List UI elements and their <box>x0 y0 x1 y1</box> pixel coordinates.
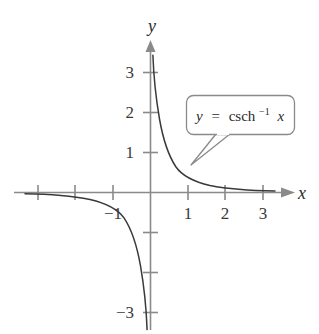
callout-exponent: −1 <box>259 106 270 117</box>
callout-func: csch <box>229 108 256 124</box>
callout-lhs: y <box>194 108 203 124</box>
y-tick-label--3: −3 <box>116 303 134 322</box>
y-tick-label-3: 3 <box>126 63 135 82</box>
x-tick-label-3: 3 <box>259 204 268 223</box>
graph-figure: −1 1 2 3 3 2 1 −3 x y y = csch −1 x <box>0 0 319 334</box>
y-tick-label-1: 1 <box>126 143 135 162</box>
x-tick-label-2: 2 <box>221 204 230 223</box>
y-axis-label: y <box>146 16 156 36</box>
plot-background <box>0 0 319 334</box>
callout-equals: = <box>211 108 219 124</box>
y-tick-label-2: 2 <box>126 103 135 122</box>
callout-arg: x <box>276 108 284 124</box>
x-tick-label-1: 1 <box>184 204 193 223</box>
coordinate-plot: −1 1 2 3 3 2 1 −3 x y y = csch −1 x <box>0 0 319 334</box>
x-axis-label: x <box>297 183 306 203</box>
